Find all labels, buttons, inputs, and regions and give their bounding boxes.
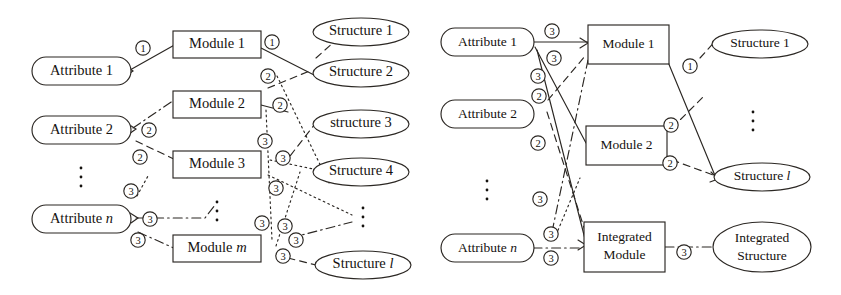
- label-r-module-1: Module 1: [602, 36, 654, 51]
- marker-3-modm-a: 3: [255, 216, 269, 230]
- marker-2-attr2-a: 2: [142, 123, 156, 137]
- label-r-integrated-module-line1: Integrated: [597, 229, 652, 244]
- svg-text:1: 1: [269, 37, 274, 48]
- svg-text:3: 3: [147, 214, 152, 225]
- marker-r-1-mod1-struct1: 1: [683, 59, 697, 73]
- svg-text:3: 3: [535, 71, 540, 82]
- marker-r-3-intmod-intstruct: 3: [677, 245, 691, 259]
- edge-r-attrn-mod1: [552, 60, 588, 232]
- marker-3-modm-c: 3: [289, 233, 303, 247]
- svg-text:3: 3: [280, 251, 285, 262]
- svg-text:3: 3: [262, 136, 267, 147]
- edge-attrn-dot-a: [137, 176, 148, 196]
- svg-text:2: 2: [137, 152, 142, 163]
- module-ellipsis-left: [216, 201, 219, 222]
- svg-text:3: 3: [280, 153, 285, 164]
- marker-3-attr2-low: 3: [124, 184, 138, 198]
- marker-3-mod3-struct4: 3: [276, 151, 290, 165]
- marker-3-attrn-low: 3: [131, 233, 145, 247]
- marker-r-3-attr1-mid: 3: [547, 51, 561, 65]
- structure-ellipsis-right: [752, 111, 755, 132]
- label-r-attribute-2: Attribute 2: [458, 106, 517, 121]
- svg-text:2: 2: [667, 158, 672, 169]
- label-r-attribute-n: Attribute n: [458, 240, 517, 255]
- svg-text:3: 3: [273, 183, 278, 194]
- label-r-structure-l: Structure l: [734, 168, 791, 183]
- marker-3-attrn-mid: 3: [143, 212, 157, 226]
- svg-text:3: 3: [551, 53, 556, 64]
- attribute-ellipsis-right: [486, 180, 489, 201]
- svg-text:3: 3: [282, 221, 287, 232]
- label-module-1: Module 1: [189, 35, 245, 51]
- svg-text:3: 3: [537, 194, 542, 205]
- label-r-integrated-module-line2: Module: [604, 247, 646, 262]
- label-module-2: Module 2: [189, 95, 245, 111]
- svg-text:2: 2: [146, 125, 151, 136]
- marker-2-mod1-struct2: 2: [261, 69, 275, 83]
- label-r-module-2: Module 2: [600, 137, 652, 152]
- diagram-figure: Attribute 1 Attribute 2 Attribute n Modu…: [0, 0, 841, 295]
- marker-2-mod2: 2: [273, 98, 287, 112]
- label-attribute-n: Attribute n: [50, 210, 113, 226]
- marker-r-3-attrn-mid: 3: [544, 227, 558, 241]
- marker-r-3-attrn-low: 3: [544, 251, 558, 265]
- label-module-3: Module 3: [189, 155, 245, 171]
- marker-3-modm-d: 3: [276, 249, 290, 263]
- panel-right: Attribute 1 Attribute 2 Attribute n Modu…: [441, 24, 811, 272]
- label-attribute-2: Attribute 2: [50, 121, 113, 137]
- label-structure-1: Structure 1: [329, 22, 393, 38]
- marker-1-mod1-struct: 1: [265, 35, 279, 49]
- edge-r-attr2-intmod: [547, 112, 588, 240]
- svg-text:2: 2: [535, 138, 540, 149]
- label-structure-l: Structure l: [333, 255, 394, 271]
- svg-text:3: 3: [135, 235, 140, 246]
- edge-modm-structl-b: [288, 258, 316, 265]
- marker-r-3-attr1-top: 3: [545, 24, 559, 38]
- label-r-integrated-structure-line2: Structure: [737, 248, 787, 263]
- label-structure-3: structure 3: [330, 114, 392, 130]
- svg-text:3: 3: [549, 26, 554, 37]
- svg-text:3: 3: [259, 218, 264, 229]
- panel-left: Attribute 1 Attribute 2 Attribute n Modu…: [32, 18, 411, 279]
- marker-3-modm-b: 3: [278, 219, 292, 233]
- label-r-attribute-1: Attribute 1: [458, 34, 517, 49]
- svg-text:1: 1: [140, 43, 145, 54]
- marker-3-mod2-struct: 3: [258, 134, 272, 148]
- svg-text:3: 3: [128, 186, 133, 197]
- label-structure-2: Structure 2: [329, 63, 393, 79]
- svg-text:2: 2: [536, 91, 541, 102]
- marker-r-2-attr2-low: 2: [531, 136, 545, 150]
- marker-r-3-attr1-low: 3: [531, 69, 545, 83]
- svg-text:2: 2: [265, 71, 270, 82]
- svg-text:3: 3: [548, 253, 553, 264]
- attribute-ellipsis-left: [80, 167, 83, 188]
- arrow-r-mod1: [580, 38, 588, 48]
- svg-text:2: 2: [668, 120, 673, 131]
- marker-r-2-mod2-up: 2: [664, 118, 678, 132]
- marker-3-mod3-lower: 3: [269, 181, 283, 195]
- svg-text:2: 2: [277, 100, 282, 111]
- marker-1-attr1-mod1: 1: [136, 41, 150, 55]
- marker-r-2-mod2-low: 2: [663, 156, 677, 170]
- svg-text:1: 1: [687, 61, 692, 72]
- label-r-structure-1: Structure 1: [730, 35, 790, 50]
- label-r-integrated-structure-line1: Integrated: [735, 230, 790, 245]
- label-structure-4: Structure 4: [329, 162, 394, 178]
- svg-text:3: 3: [548, 229, 553, 240]
- structure-ellipsis-left: [362, 207, 365, 228]
- marker-2-attr2-b: 2: [133, 150, 147, 164]
- diagram-canvas: Attribute 1 Attribute 2 Attribute n Modu…: [0, 0, 841, 295]
- label-module-m: Module m: [187, 239, 246, 255]
- svg-text:3: 3: [293, 235, 298, 246]
- marker-r-3-attrn-up: 3: [533, 192, 547, 206]
- marker-r-2-attr2-up: 2: [532, 89, 546, 103]
- svg-text:3: 3: [681, 247, 686, 258]
- label-attribute-1: Attribute 1: [50, 62, 113, 78]
